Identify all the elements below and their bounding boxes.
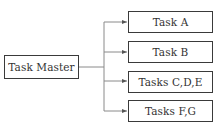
tasks-cde-node: Tasks C,D,E [128, 71, 213, 93]
task-a-node: Task A [128, 11, 213, 33]
task-b-node: Task B [128, 41, 213, 63]
task-master-node: Task Master [4, 55, 79, 79]
task-a-label: Task A [153, 16, 189, 28]
task-b-label: Task B [153, 46, 189, 58]
task-tree-diagram: Task Master Task A Task B Tasks C,D,E Ta… [0, 0, 222, 137]
tasks-fg-node: Tasks F,G [128, 100, 213, 122]
tasks-cde-label: Tasks C,D,E [138, 76, 202, 88]
tasks-fg-label: Tasks F,G [145, 105, 196, 117]
task-master-label: Task Master [8, 61, 75, 73]
